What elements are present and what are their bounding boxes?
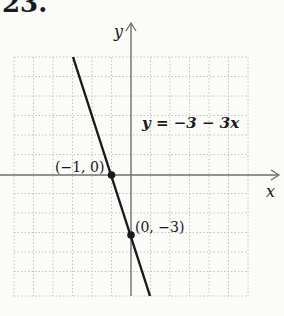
y-axis-label: y — [113, 22, 124, 41]
x-axis-label: x — [266, 182, 275, 201]
x-axis — [0, 170, 279, 180]
point-label-y-intercept: (0, −3) — [135, 219, 184, 235]
point-x-intercept — [108, 171, 116, 179]
coordinate-graph: y x y = −3 − 3x (−1, 0) (0, −3) — [0, 0, 284, 316]
point-label-x-intercept: (−1, 0) — [55, 159, 104, 175]
point-y-intercept — [127, 231, 135, 239]
y-axis — [126, 23, 136, 296]
equation-label: y = −3 − 3x — [141, 114, 240, 132]
